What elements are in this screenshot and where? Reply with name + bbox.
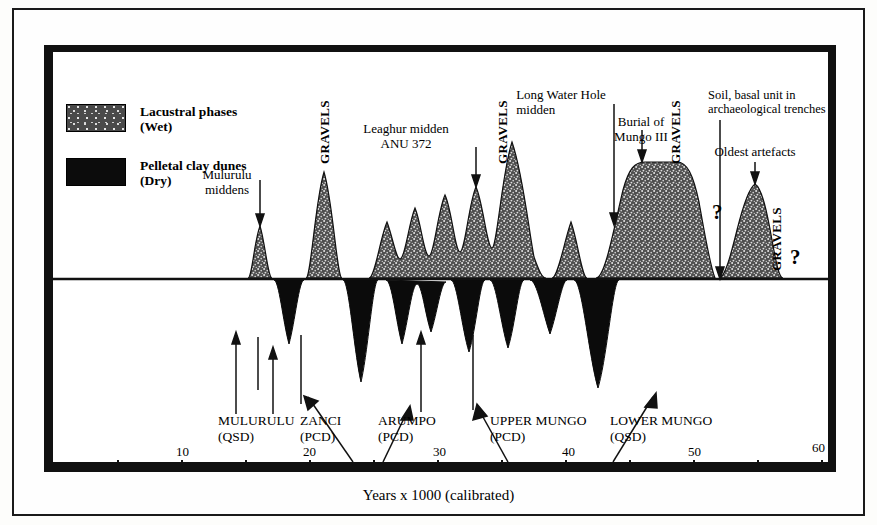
phase-name-arumpo: ARUMPO [378,413,436,429]
x-tick-minor-15 [245,460,247,468]
phase-unit-lower-mungo: (QSD) [610,429,712,445]
x-axis-ticks [53,460,828,470]
annotation-soil-line2: archaeological trenches [708,102,826,116]
gravels-label-1: GRAVELS [317,100,333,164]
x-tick-label-50: 50 [688,444,701,460]
legend-item-lacustral: Lacustral phases (Wet) [66,104,296,134]
x-tick-major-60 [821,460,823,469]
phase-label-arumpo: ARUMPO (PCD) [378,413,436,444]
phase-unit-arumpo: (PCD) [378,429,436,445]
legend-sublabel-pelletal: (Dry) [140,173,171,188]
question-mark-1: ? [712,200,723,225]
phase-label-upper-mungo: UPPER MUNGO (PCD) [490,413,586,444]
annotation-oldest-artefacts: Oldest artefacts [714,145,795,160]
phase-name-mulurulu: MULURULU [218,413,295,429]
x-tick-label-30: 30 [433,444,446,460]
x-tick-label-40: 40 [562,444,575,460]
legend-sublabel-lacustral: (Wet) [140,119,172,134]
annotation-long-water-hole: Long Water Hole midden [516,88,606,117]
dry-black-swatch [66,158,126,186]
legend: Lacustral phases (Wet) Pelletal clay dun… [66,104,296,212]
phase-label-lower-mungo: LOWER MUNGO (QSD) [610,413,712,444]
annotation-leaghur-line1: Leaghur midden [363,121,449,136]
x-tick-major-20 [309,460,311,469]
phase-name-zanci: ZANCI [300,413,341,429]
x-axis-title: Years x 1000 (calibrated) [0,487,877,504]
x-tick-minor-5 [117,460,119,468]
annotation-mulurulu-line1: Mulurulu [202,167,251,182]
annotation-burial-line1: Burial of [618,114,665,129]
annotation-soil-line1: Soil, basal unit in [708,88,796,102]
x-tick-label-20: 20 [303,444,316,460]
annotation-leaghur-line2: ANU 372 [381,136,432,151]
annotation-burial-line2: Mungo III [614,129,668,144]
x-tick-minor-55 [757,460,759,468]
annotation-longwaterhole-line1: Long Water Hole [516,87,606,102]
phase-name-lower-mungo: LOWER MUNGO [610,413,712,429]
question-mark-2: ? [790,245,801,270]
gravels-label-3: GRAVELS [668,100,684,164]
x-tick-major-40 [565,460,567,469]
legend-label-lacustral: Lacustral phases [140,104,237,119]
phase-unit-mulurulu: (QSD) [218,429,295,445]
annotation-mulurulu-middens: Mulurulu middens [202,168,251,197]
annotation-soil-basal-unit: Soil, basal unit in archaeological trenc… [708,88,826,116]
gravels-label-4: GRAVELS [769,207,785,271]
wet-stipple-swatch [66,104,126,132]
phase-label-mulurulu: MULURULU (QSD) [218,413,295,444]
annotation-longwaterhole-line2: midden [516,102,555,117]
x-tick-minor-25 [373,460,375,468]
legend-item-pelletal: Pelletal clay dunes (Dry) [66,158,296,188]
x-tick-major-30 [437,460,439,469]
gravels-label-2: GRAVELS [495,100,511,164]
x-tick-major-10 [181,460,183,469]
phase-unit-zanci: (PCD) [300,429,341,445]
annotation-burial-mungo-iii: Burial of Mungo III [614,115,668,144]
figure-page: Lacustral phases (Wet) Pelletal clay dun… [0,0,877,525]
x-tick-minor-45 [629,460,631,468]
phase-label-zanci: ZANCI (PCD) [300,413,341,444]
x-tick-label-60: 60 [812,440,825,456]
dry-pelletal-dune-area [274,280,619,388]
x-tick-major-50 [693,460,695,469]
annotation-oldest-artefacts-label: Oldest artefacts [714,144,795,159]
x-tick-label-10: 10 [176,444,189,460]
annotation-mulurulu-line2: middens [205,182,249,197]
x-tick-minor-35 [501,460,503,468]
annotation-leaghur-midden: Leaghur midden ANU 372 [363,122,449,151]
phase-name-upper-mungo: UPPER MUNGO [490,413,586,429]
legend-item-lacustral-text: Lacustral phases (Wet) [140,104,237,134]
phase-unit-upper-mungo: (PCD) [490,429,586,445]
